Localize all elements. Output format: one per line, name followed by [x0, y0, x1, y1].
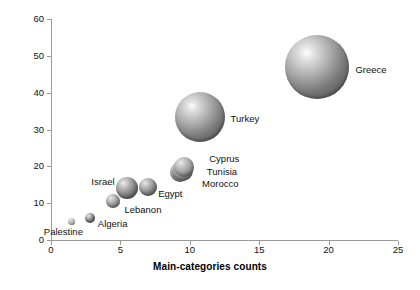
bubble-label-palestine: Palestine [44, 227, 83, 237]
bubble-algeria[interactable] [85, 213, 95, 223]
y-tick-label: 30 [0, 125, 44, 135]
x-tick-label: 15 [239, 245, 279, 255]
x-tick-label: 25 [378, 245, 418, 255]
y-tick-label: 60 [0, 14, 44, 24]
y-tick-label: 50 [0, 51, 44, 61]
y-tick-label: 20 [0, 161, 44, 171]
y-tick-label: 40 [0, 88, 44, 98]
x-tick-label: 5 [100, 245, 140, 255]
y-tick-label: 0 [0, 235, 44, 245]
bubble-label-tunisia: Tunisia [207, 167, 237, 177]
bubble-palestine[interactable] [68, 218, 75, 225]
y-tick-label: 10 [0, 198, 44, 208]
bubble-label-greece: Greece [355, 65, 386, 75]
bubble-label-lebanon: Lebanon [124, 205, 161, 215]
bubble-label-turkey: Turkey [231, 114, 260, 124]
bubble-chart: 0102030405060 0510152025 PalestineAlgeri… [0, 0, 420, 290]
bubble-turkey[interactable] [175, 92, 225, 142]
x-axis-title: Main-categories counts [0, 261, 420, 272]
bubble-label-egypt: Egypt [158, 189, 182, 199]
bubble-label-morocco: Morocco [202, 179, 238, 189]
bubble-egypt[interactable] [139, 178, 157, 196]
bubble-greece[interactable] [285, 35, 349, 99]
bubble-lebanon[interactable] [106, 194, 120, 208]
x-tick-label: 10 [170, 245, 210, 255]
bubble-label-israel: Israel [91, 177, 114, 187]
bubble-label-cyprus: Cyprus [209, 154, 239, 164]
x-tick-label: 20 [309, 245, 349, 255]
x-tick-label: 0 [31, 245, 71, 255]
bubble-label-algeria: Algeria [98, 219, 128, 229]
plot-area: PalestineAlgeriaLebanonIsraelEgyptMorocc… [51, 19, 398, 241]
bubble-israel[interactable] [116, 177, 138, 199]
